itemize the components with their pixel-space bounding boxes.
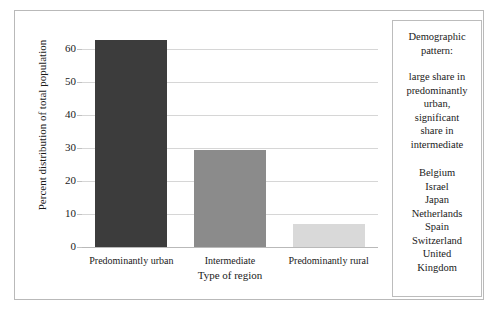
bar-chart: Percent distribution of total population… bbox=[15, 11, 379, 299]
y-axis-tick-mark bbox=[77, 181, 82, 182]
bar bbox=[293, 224, 365, 247]
y-axis-tick-label: 20 bbox=[36, 175, 76, 186]
y-axis-tick-label: 50 bbox=[36, 76, 76, 87]
x-axis-category-label: Predominantly rural bbox=[273, 255, 384, 266]
y-axis-tick-label: 60 bbox=[36, 43, 76, 54]
y-axis-tick-label: 30 bbox=[36, 142, 76, 153]
panel-heading: Demographic pattern: bbox=[397, 30, 477, 57]
x-axis-category-label: Intermediate bbox=[175, 255, 286, 266]
x-axis-line bbox=[82, 247, 378, 248]
y-axis-tick-label: 0 bbox=[36, 241, 76, 252]
y-axis-tick-mark bbox=[77, 247, 82, 248]
bar bbox=[95, 40, 167, 247]
figure-frame: Percent distribution of total population… bbox=[14, 10, 484, 300]
y-axis-tick-label: 10 bbox=[36, 208, 76, 219]
country-item: United Kingdom bbox=[397, 247, 477, 274]
y-axis-tick-mark bbox=[77, 82, 82, 83]
y-axis-tick-mark bbox=[77, 148, 82, 149]
x-axis-title: Type of region bbox=[82, 269, 378, 281]
country-item: Israel bbox=[397, 180, 477, 194]
plot-area: 0102030405060Predominantly urbanIntermed… bbox=[82, 33, 378, 247]
country-item: Switzerland bbox=[397, 234, 477, 248]
country-item: Belgium bbox=[397, 166, 477, 180]
country-list: BelgiumIsraelJapanNetherlandsSpainSwitze… bbox=[397, 166, 477, 274]
panel-description: large share in predominantly urban, sign… bbox=[397, 70, 477, 151]
country-item: Netherlands bbox=[397, 207, 477, 221]
y-axis-tick-mark bbox=[77, 214, 82, 215]
x-axis-category-label: Predominantly urban bbox=[76, 255, 187, 266]
y-axis-tick-mark bbox=[77, 115, 82, 116]
bar bbox=[194, 150, 266, 247]
country-item: Japan bbox=[397, 193, 477, 207]
country-item: Spain bbox=[397, 220, 477, 234]
demographic-pattern-panel: Demographic pattern: large share in pred… bbox=[392, 20, 482, 297]
y-axis-tick-label: 40 bbox=[36, 109, 76, 120]
y-axis-tick-mark bbox=[77, 49, 82, 50]
